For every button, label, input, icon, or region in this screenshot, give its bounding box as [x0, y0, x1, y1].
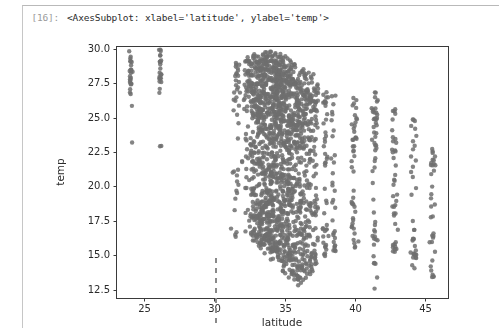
output-text-row: [16]: <AxesSubplot: xlabel='latitude', y… [23, 10, 499, 30]
output-prompt-label: [16]: [25, 12, 59, 23]
notebook-output-cell: [16]: <AxesSubplot: xlabel='latitude', y… [22, 5, 499, 328]
screenshot-root: [16]: <AxesSubplot: xlabel='latitude', y… [0, 0, 499, 328]
text-caret [215, 258, 217, 328]
scatter-plot-canvas [23, 28, 499, 328]
matplotlib-figure [23, 28, 499, 328]
output-repr-text: <AxesSubplot: xlabel='latitude', ylabel=… [67, 12, 329, 23]
